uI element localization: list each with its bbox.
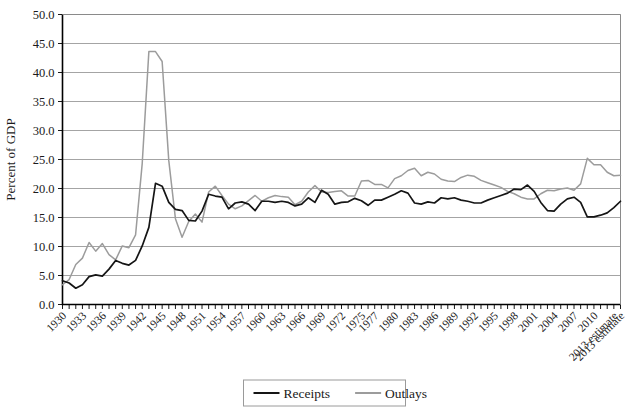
y-tick-label: 40.0	[33, 66, 55, 80]
x-tick-label: 1983	[396, 309, 421, 334]
x-tick-label: 2007	[555, 309, 580, 334]
chart-figure: 0.05.010.015.020.025.030.035.040.045.050…	[0, 0, 629, 417]
legend-label-receipts: Receipts	[284, 386, 331, 401]
x-tick-label: 1936	[84, 309, 109, 334]
x-tick-label: 1972	[323, 309, 348, 334]
chart-canvas: 0.05.010.015.020.025.030.035.040.045.050…	[0, 0, 629, 417]
data-series-group	[63, 52, 621, 289]
x-tick-label: 2001	[515, 309, 540, 334]
x-tick-label: 1989	[436, 309, 461, 334]
series-line-outlays	[63, 52, 621, 285]
y-tick-label: 45.0	[33, 37, 55, 51]
x-tick-label: 1954	[203, 309, 228, 334]
x-tick-label: 1951	[183, 309, 208, 334]
series-line-receipts	[63, 183, 621, 288]
y-tick-label: 5.0	[39, 269, 55, 283]
x-tick-label: 1969	[303, 309, 328, 334]
x-tick-label: 1960	[243, 309, 268, 334]
x-tick-label: 1995	[476, 309, 501, 334]
x-tick-label: 2004	[535, 309, 560, 334]
y-tick-label: 35.0	[33, 95, 55, 109]
x-tick-label: 1939	[104, 309, 129, 334]
legend-label-outlays: Outlays	[385, 386, 427, 401]
x-tick-label: 1948	[163, 309, 188, 334]
x-tick-label: 1966	[283, 309, 308, 334]
y-axis-title-group: Percent of GDP	[3, 118, 18, 200]
y-tick-label: 25.0	[33, 153, 55, 167]
y-tick-label: 50.0	[33, 8, 55, 22]
y-tick-label: 20.0	[33, 182, 55, 196]
x-tick-label: 1992	[456, 309, 481, 334]
y-tick-label: 10.0	[33, 240, 55, 254]
chart-legend: ReceiptsOutlays	[244, 380, 428, 406]
x-tick-label: 1980	[376, 309, 401, 334]
y-tick-label: 0.0	[39, 298, 55, 312]
x-tick-label: 1963	[263, 309, 288, 334]
x-tick-label: 1930	[44, 309, 69, 334]
x-tick-labels-group: 1930193319361939194219451948195119541957…	[44, 309, 627, 363]
x-tick-label: 2013 estimate	[573, 309, 626, 362]
x-tick-label: 1942	[124, 309, 149, 334]
y-tick-label: 30.0	[33, 124, 55, 138]
x-tick-label: 1957	[223, 309, 248, 334]
y-axis-title: Percent of GDP	[3, 118, 18, 200]
x-tick-label: 1998	[496, 309, 521, 334]
x-tick-label: 1945	[143, 309, 168, 334]
x-tick-label: 1986	[416, 309, 441, 334]
x-tick-label: 1933	[64, 309, 89, 334]
y-tick-label: 15.0	[33, 211, 55, 225]
y-tick-labels-group: 0.05.010.015.020.025.030.035.040.045.050…	[33, 8, 55, 312]
